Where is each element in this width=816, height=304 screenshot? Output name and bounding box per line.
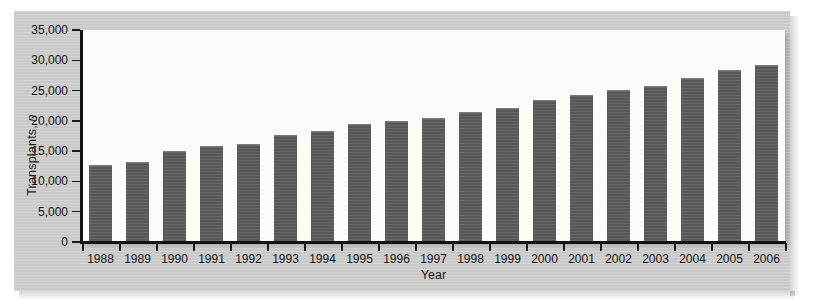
x-axis-tick <box>119 243 121 251</box>
x-axis-tick <box>637 243 639 251</box>
x-axis-tick-label: 1996 <box>383 252 410 266</box>
x-axis-tick-label: 1995 <box>346 252 373 266</box>
bar-1999 <box>496 108 519 242</box>
bar-1993 <box>274 135 297 242</box>
x-axis-tick-label: 2002 <box>605 252 632 266</box>
bar-2001 <box>570 95 593 242</box>
x-axis-tick <box>341 243 343 251</box>
y-axis-tick <box>72 90 80 92</box>
x-axis-tick <box>378 243 380 251</box>
y-axis-tick <box>72 241 80 243</box>
x-axis-tick <box>489 243 491 251</box>
y-axis-tick <box>72 150 80 152</box>
x-axis-tick-label: 1991 <box>198 252 225 266</box>
bar-2004 <box>681 78 704 242</box>
bar-1998 <box>459 112 482 242</box>
bar-1990 <box>163 151 186 242</box>
x-axis-tick-label: 1994 <box>309 252 336 266</box>
bar-1989 <box>126 162 149 242</box>
y-axis-tick <box>72 120 80 122</box>
y-axis-title: Transplants, n <box>25 65 43 245</box>
x-axis-tick <box>452 243 454 251</box>
x-axis-tick <box>415 243 417 251</box>
x-axis-tick-label: 2006 <box>753 252 780 266</box>
bar-1997 <box>422 118 445 242</box>
x-axis-tick-label: 2005 <box>716 252 743 266</box>
x-axis-tick-label: 1993 <box>272 252 299 266</box>
x-axis-tick <box>563 243 565 251</box>
x-axis-title: Year <box>82 268 785 282</box>
x-axis-tick <box>267 243 269 251</box>
x-axis-tick-label: 1989 <box>124 252 151 266</box>
x-axis-tick-label: 1998 <box>457 252 484 266</box>
x-axis-line <box>80 241 786 244</box>
x-axis-tick <box>600 243 602 251</box>
y-axis-tick <box>72 211 80 213</box>
x-axis-tick <box>526 243 528 251</box>
y-axis-tick <box>72 60 80 62</box>
y-axis-line <box>80 30 83 243</box>
bar-2003 <box>644 86 667 242</box>
y-axis-tick-label-wrap: 35,000 <box>0 30 68 44</box>
x-axis-tick-label: 2001 <box>568 252 595 266</box>
y-axis-tick <box>72 181 80 183</box>
x-axis-tick <box>711 243 713 251</box>
panel-shadow-right <box>790 16 800 296</box>
x-axis-tick-label: 1999 <box>494 252 521 266</box>
x-axis-tick-label: 2003 <box>642 252 669 266</box>
bar-1991 <box>200 146 223 242</box>
bar-1996 <box>385 121 408 242</box>
bar-2006 <box>755 65 778 242</box>
bars-layer <box>82 30 785 242</box>
y-axis-title-italic: n <box>25 114 39 121</box>
x-axis-tick-label: 1997 <box>420 252 447 266</box>
x-axis-tick-label: 1992 <box>235 252 262 266</box>
x-axis-tick <box>674 243 676 251</box>
bar-2000 <box>533 100 556 242</box>
x-axis-tick <box>82 243 84 251</box>
x-axis-tick <box>156 243 158 251</box>
bar-1995 <box>348 124 371 242</box>
y-axis-tick <box>72 29 80 31</box>
x-axis-tick <box>785 243 787 251</box>
x-axis-tick-label: 1988 <box>87 252 114 266</box>
y-axis-tick-label: 35,000 <box>2 23 68 37</box>
figure-container: 05,00010,00015,00020,00025,00030,00035,0… <box>0 0 816 304</box>
x-axis-tick <box>230 243 232 251</box>
x-axis-tick <box>748 243 750 251</box>
bar-1988 <box>89 165 112 242</box>
bar-2002 <box>607 90 630 242</box>
x-axis-tick <box>304 243 306 251</box>
x-axis-tick <box>193 243 195 251</box>
bar-2005 <box>718 70 741 242</box>
bar-1994 <box>311 131 334 242</box>
plot-area <box>82 30 785 242</box>
x-axis-tick-label: 2000 <box>531 252 558 266</box>
x-axis-tick-label: 1990 <box>161 252 188 266</box>
bar-1992 <box>237 144 260 242</box>
y-axis-title-text: Transplants, <box>25 121 39 195</box>
x-axis-tick-label: 2004 <box>679 252 706 266</box>
panel-shadow-bottom <box>19 291 795 300</box>
